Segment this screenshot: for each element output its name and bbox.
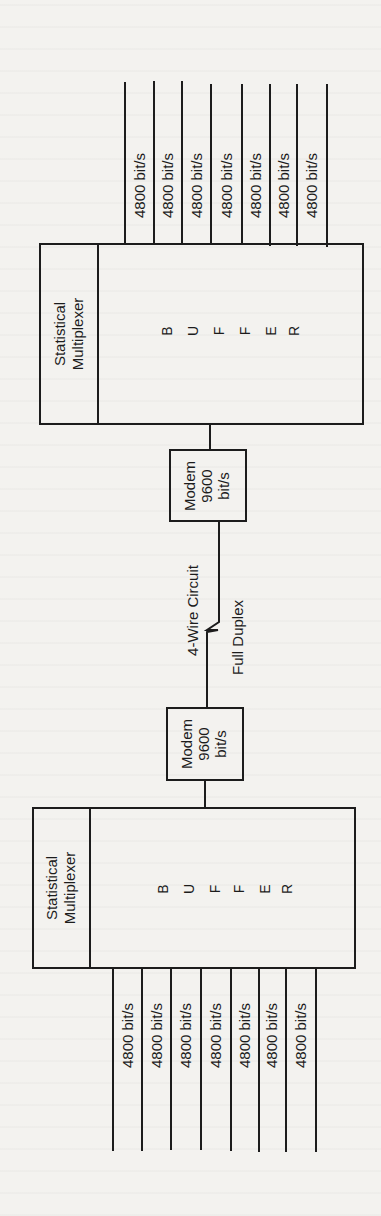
bottom-channel-line (200, 968, 202, 1150)
bottom-channel-rate-label: 4800 bit/s (208, 991, 223, 1081)
bottom-multiplexer-label: Statistical Multiplexer (43, 833, 79, 943)
bottom-buffer-letter: U (182, 882, 196, 896)
bottom-buffer-letter: F (232, 882, 246, 896)
bottom-channel-line (112, 968, 114, 1151)
bottom-channel-rate-label: 4800 bit/s (178, 991, 193, 1081)
bottom-channel-line (230, 968, 232, 1151)
bottom-channel-line (315, 968, 317, 1152)
bottom-modem-connector (204, 780, 206, 809)
bottom-buffer-letter: R (280, 882, 294, 896)
bottom-modem-label-line3: bit/s (212, 709, 229, 779)
bottom-buffer-letter: E (258, 882, 272, 896)
bottom-multiplexer-label-line2: Multiplexer (61, 833, 79, 943)
bottom-channel-line (170, 968, 172, 1150)
circuit-label-4-wire: 4-Wire Circuit (185, 558, 200, 663)
bottom-channel-rate-label: 4800 bit/s (149, 991, 164, 1081)
bottom-multiplexer-divider (89, 808, 91, 968)
bottom-channel-rate-label: 4800 bit/s (120, 991, 135, 1081)
bottom-buffer-letter: F (208, 882, 222, 896)
bottom-modem-label-line2: 9600 (195, 709, 212, 779)
bottom-channel-rate-label: 4800 bit/s (237, 991, 252, 1081)
bottom-modem-label: Modem 9600 bit/s (178, 709, 232, 779)
circuit-label-full-duplex: Full Duplex (230, 590, 245, 685)
bottom-channel-rate-label: 4800 bit/s (293, 991, 308, 1081)
bottom-modem-label-line1: Modem (178, 709, 195, 779)
bottom-buffer-letter: B (156, 882, 170, 896)
bottom-channel-line (285, 968, 287, 1152)
bottom-channel-rate-label: 4800 bit/s (264, 991, 279, 1081)
bottom-channel-line (141, 968, 143, 1151)
bottom-multiplexer-label-line1: Statistical (43, 833, 61, 943)
bottom-channel-line (258, 968, 260, 1152)
